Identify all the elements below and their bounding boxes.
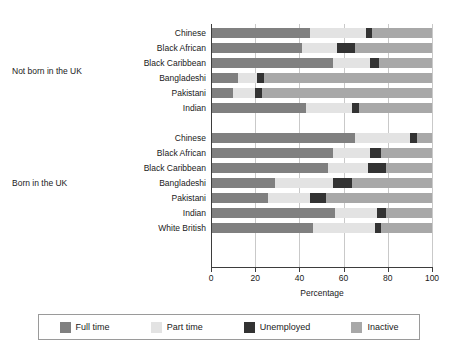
bar-segment-inactive — [359, 103, 432, 113]
bar-row — [211, 43, 432, 53]
category-label: Pakistani — [172, 88, 207, 98]
category-label: Pakistani — [172, 193, 207, 203]
bar-segment-part-time — [238, 73, 258, 83]
x-tick-40 — [299, 268, 300, 272]
bar-segment-full-time — [211, 103, 306, 113]
bar-segment-part-time — [333, 58, 371, 68]
x-tick-label-100: 100 — [425, 273, 439, 283]
bar-segment-full-time — [211, 208, 335, 218]
bar-segment-part-time — [233, 88, 255, 98]
bar-segment-full-time — [211, 43, 302, 53]
group-label-born-in-uk: Born in the UK — [12, 178, 67, 188]
x-tick-label-20: 20 — [250, 273, 259, 283]
category-label: Indian — [183, 103, 206, 113]
bar-segment-full-time — [211, 163, 328, 173]
bar-segment-unemployed — [368, 163, 386, 173]
legend-swatch-inactive — [351, 322, 362, 333]
bar-segment-full-time — [211, 133, 355, 143]
category-label: Chinese — [175, 28, 206, 38]
gridline-100 — [432, 24, 433, 267]
bar-row — [211, 208, 432, 218]
bar-segment-unemployed — [352, 103, 359, 113]
bar-segment-inactive — [352, 178, 432, 188]
bar-segment-unemployed — [366, 28, 373, 38]
bar-segment-unemployed — [370, 148, 381, 158]
bar-segment-part-time — [302, 43, 337, 53]
legend-swatch-part-time — [151, 322, 162, 333]
bar-segment-unemployed — [377, 208, 386, 218]
category-label: Black African — [157, 43, 206, 53]
legend-label-unemployed: Unemployed — [260, 322, 311, 332]
bar-row — [211, 163, 432, 173]
bar-row — [211, 58, 432, 68]
bar-segment-unemployed — [370, 58, 379, 68]
x-tick-label-40: 40 — [295, 273, 304, 283]
bar-segment-unemployed — [410, 133, 417, 143]
legend-label-part-time: Part time — [167, 322, 203, 332]
legend-label-full-time: Full time — [76, 322, 110, 332]
legend-item-full-time[interactable]: Full time — [60, 322, 110, 333]
bar-segment-inactive — [417, 133, 432, 143]
bar-row — [211, 178, 432, 188]
category-label: Chinese — [175, 133, 206, 143]
bar-segment-part-time — [333, 148, 371, 158]
bar-segment-full-time — [211, 88, 233, 98]
bar-segment-full-time — [211, 58, 333, 68]
bar-segment-inactive — [372, 28, 432, 38]
x-tick-label-60: 60 — [339, 273, 348, 283]
bar-row — [211, 148, 432, 158]
x-axis-label: Percentage — [211, 288, 433, 298]
bar-segment-inactive — [326, 193, 432, 203]
x-tick-60 — [344, 268, 345, 272]
category-label: Bangladeshi — [159, 178, 206, 188]
y-axis-spine — [211, 24, 212, 267]
legend-swatch-full-time — [60, 322, 71, 333]
bar-row — [211, 193, 432, 203]
bar-row — [211, 28, 432, 38]
bar-segment-full-time — [211, 28, 310, 38]
bar-segment-part-time — [310, 28, 365, 38]
bar-segment-part-time — [268, 193, 310, 203]
bar-segment-part-time — [275, 178, 332, 188]
bar-segment-part-time — [355, 133, 410, 143]
category-axis-labels: ChineseBlack AfricanBlack CaribbeanBangl… — [84, 24, 206, 264]
bar-segment-inactive — [386, 208, 432, 218]
bar-segment-part-time — [306, 103, 352, 113]
legend-label-inactive: Inactive — [367, 322, 398, 332]
bar-row — [211, 73, 432, 83]
legend-item-part-time[interactable]: Part time — [151, 322, 203, 333]
bar-row — [211, 103, 432, 113]
x-axis-line — [211, 267, 433, 268]
bar-segment-part-time — [313, 223, 375, 233]
x-tick-label-80: 80 — [383, 273, 392, 283]
bar-segment-unemployed — [310, 193, 325, 203]
category-label: Black Caribbean — [144, 163, 206, 173]
bar-segment-inactive — [379, 58, 432, 68]
legend-item-inactive[interactable]: Inactive — [351, 322, 398, 333]
bar-segment-unemployed — [333, 178, 353, 188]
x-tick-20 — [255, 268, 256, 272]
bar-row — [211, 133, 432, 143]
legend: Full timePart timeUnemployedInactive — [38, 314, 420, 340]
x-tick-80 — [388, 268, 389, 272]
bar-segment-inactive — [381, 223, 432, 233]
bar-row — [211, 88, 432, 98]
bar-segment-full-time — [211, 73, 238, 83]
bar-segment-inactive — [264, 73, 432, 83]
plot-area — [211, 24, 432, 267]
group-label-not-born-in-uk: Not born in the UK — [12, 66, 82, 76]
bar-segment-inactive — [381, 148, 432, 158]
bar-segment-inactive — [262, 88, 432, 98]
bar-segment-full-time — [211, 193, 268, 203]
bar-row — [211, 223, 432, 233]
bar-segment-unemployed — [255, 88, 262, 98]
bar-segment-part-time — [335, 208, 377, 218]
category-label: Black Caribbean — [144, 58, 206, 68]
bar-segment-full-time — [211, 178, 275, 188]
category-label: Black African — [157, 148, 206, 158]
legend-item-unemployed[interactable]: Unemployed — [244, 322, 311, 333]
legend-swatch-unemployed — [244, 322, 255, 333]
bar-segment-inactive — [386, 163, 432, 173]
bar-segment-full-time — [211, 223, 313, 233]
x-tick-100 — [432, 268, 433, 272]
